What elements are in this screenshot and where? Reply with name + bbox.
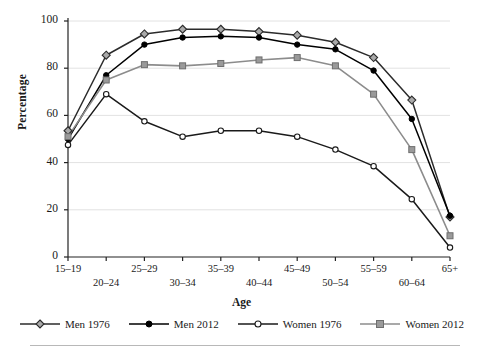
data-point-men-1976 — [102, 51, 110, 59]
circle-filled-marker — [128, 318, 170, 330]
data-point-women-1976 — [256, 128, 261, 133]
data-point-women-2012 — [447, 233, 453, 239]
data-point-women-2012 — [371, 91, 377, 97]
legend-item-label: Women 1976 — [283, 318, 342, 330]
x-axis-tick-label: 25–29 — [122, 263, 166, 274]
data-point-women-1976 — [371, 163, 376, 168]
circle-open-marker — [237, 318, 279, 330]
data-point-men-2012 — [409, 116, 414, 121]
x-axis-tick-label: 60–64 — [390, 277, 434, 288]
data-point-men-1976 — [140, 30, 148, 38]
data-point-men-1976 — [179, 25, 187, 33]
data-point-women-1976 — [295, 134, 300, 139]
x-axis-title: Age — [0, 296, 483, 308]
x-axis-tick-label: 30–34 — [161, 277, 205, 288]
data-point-women-1976 — [447, 245, 452, 250]
data-point-women-2012 — [409, 147, 415, 153]
data-point-men-2012 — [295, 42, 300, 47]
data-point-women-1976 — [65, 142, 70, 147]
chart-legend: Men 1976Men 2012Women 1976Women 2012 — [0, 318, 483, 330]
data-point-men-2012 — [180, 35, 185, 40]
data-point-women-2012 — [294, 55, 300, 61]
series-line-women-2012 — [68, 58, 450, 236]
x-axis-tick-label: 45–49 — [275, 263, 319, 274]
data-point-women-2012 — [103, 77, 109, 83]
legend-item-label: Women 2012 — [405, 318, 464, 330]
diamond-open-marker — [19, 318, 61, 330]
data-point-women-2012 — [218, 60, 224, 66]
data-point-men-1976 — [331, 38, 339, 46]
data-point-women-2012 — [256, 57, 262, 63]
legend-item-label: Men 2012 — [174, 318, 219, 330]
employment-rate-by-age-line-chart: Percentage 020406080100 15–1920–2425–293… — [0, 0, 483, 356]
data-point-women-2012 — [65, 134, 71, 140]
x-axis-tick-label: 65+ — [428, 263, 472, 274]
data-point-women-1976 — [142, 119, 147, 124]
bottom-divider-rule — [30, 345, 460, 346]
data-point-women-2012 — [180, 63, 186, 69]
data-point-men-2012 — [218, 34, 223, 39]
legend-item-label: Men 1976 — [65, 318, 110, 330]
legend-item-men-1976[interactable]: Men 1976 — [19, 318, 110, 330]
data-point-women-1976 — [409, 196, 414, 201]
legend-item-women-1976[interactable]: Women 1976 — [237, 318, 342, 330]
data-point-women-1976 — [180, 134, 185, 139]
data-point-women-1976 — [104, 91, 109, 96]
data-point-men-1976 — [217, 25, 225, 33]
x-axis-tick-label: 40–44 — [237, 277, 281, 288]
square-filled-marker — [359, 318, 401, 330]
x-axis-tick-label: 15–19 — [46, 263, 90, 274]
data-point-men-2012 — [256, 35, 261, 40]
data-point-men-1976 — [293, 31, 301, 39]
legend-item-women-2012[interactable]: Women 2012 — [359, 318, 464, 330]
data-point-women-2012 — [332, 63, 338, 69]
x-axis-tick-label: 20–24 — [84, 277, 128, 288]
data-point-men-2012 — [447, 213, 452, 218]
x-axis-tick-label: 35–39 — [199, 263, 243, 274]
data-point-women-1976 — [333, 147, 338, 152]
legend-item-men-2012[interactable]: Men 2012 — [128, 318, 219, 330]
data-point-men-2012 — [371, 68, 376, 73]
x-axis-tick-label: 55–59 — [352, 263, 396, 274]
data-point-women-1976 — [218, 128, 223, 133]
data-point-women-2012 — [141, 62, 147, 68]
x-axis-tick-label: 50–54 — [313, 277, 357, 288]
data-point-men-2012 — [333, 47, 338, 52]
series-line-women-1976 — [68, 94, 450, 247]
data-point-men-2012 — [142, 42, 147, 47]
